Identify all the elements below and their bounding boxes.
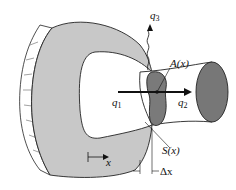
label-q2: q2 — [178, 97, 188, 110]
label-q1: q1 — [112, 97, 122, 110]
body-region — [32, 22, 152, 177]
label-surface: S(x) — [162, 145, 180, 156]
label-q3: q3 — [150, 10, 160, 23]
label-area: A(x) — [170, 58, 189, 69]
diagram-figure — [0, 0, 236, 190]
label-axis-x: x — [106, 157, 111, 168]
end-section — [196, 62, 228, 122]
diagram-canvas: q3 A(x) q1 q2 S(x) x Δx — [0, 0, 236, 190]
label-delta-x: Δx — [160, 166, 173, 177]
